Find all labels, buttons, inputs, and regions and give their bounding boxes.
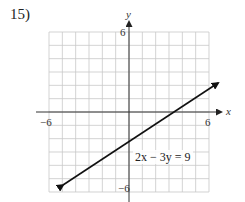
equation-label: 2x − 3y = 9 <box>135 150 191 164</box>
y-axis-label: y <box>125 8 131 20</box>
coordinate-plane: x y −6 6 6 −6 2x − 3y = 9 <box>0 0 245 202</box>
y-max-tick-label: 6 <box>120 26 126 38</box>
y-min-tick-label: −6 <box>118 182 130 194</box>
x-max-tick-label: 6 <box>205 116 211 128</box>
x-axis-label: x <box>225 105 231 117</box>
x-min-tick-label: −6 <box>40 116 52 128</box>
